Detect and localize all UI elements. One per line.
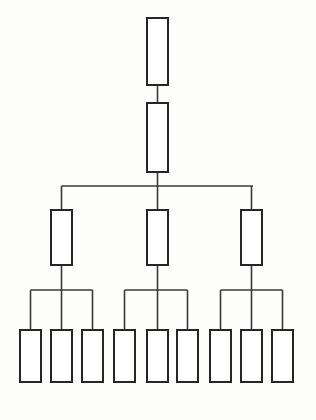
node-box-n2c[interactable] — [241, 210, 262, 265]
node-n3b3[interactable] — [177, 330, 198, 382]
node-n3a3[interactable] — [82, 330, 103, 382]
node-n0[interactable] — [147, 18, 168, 85]
node-n1[interactable] — [147, 103, 168, 172]
node-n2c[interactable] — [241, 210, 262, 265]
node-box-n2b[interactable] — [147, 210, 168, 265]
diagram-canvas — [0, 0, 316, 420]
node-n3c1[interactable] — [210, 330, 231, 382]
node-n3b2[interactable] — [147, 330, 168, 382]
node-box-n3b2[interactable] — [147, 330, 168, 382]
node-n3a2[interactable] — [51, 330, 72, 382]
hierarchy-diagram — [0, 0, 316, 420]
node-box-n3c3[interactable] — [272, 330, 293, 382]
node-n3c2[interactable] — [241, 330, 262, 382]
node-n3c3[interactable] — [272, 330, 293, 382]
node-box-n3c2[interactable] — [241, 330, 262, 382]
node-box-n1[interactable] — [147, 103, 168, 172]
node-box-n3a2[interactable] — [51, 330, 72, 382]
node-n2a[interactable] — [51, 210, 72, 265]
node-n3a1[interactable] — [20, 330, 41, 382]
node-n2b[interactable] — [147, 210, 168, 265]
node-box-n2a[interactable] — [51, 210, 72, 265]
node-box-n3a1[interactable] — [20, 330, 41, 382]
node-box-n3c1[interactable] — [210, 330, 231, 382]
node-n3b1[interactable] — [114, 330, 135, 382]
node-box-n3b3[interactable] — [177, 330, 198, 382]
node-box-n0[interactable] — [147, 18, 168, 85]
node-box-n3a3[interactable] — [82, 330, 103, 382]
node-box-n3b1[interactable] — [114, 330, 135, 382]
